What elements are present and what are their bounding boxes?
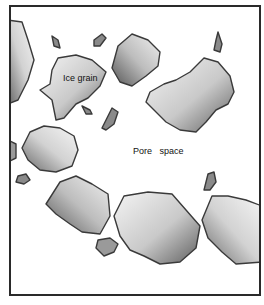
ice-particle [102, 108, 118, 130]
ice-grain-left-top [8, 20, 34, 104]
ice-grain-labeled [40, 55, 106, 120]
ice-grain-upper-mid [112, 34, 160, 86]
ice-particle [96, 238, 118, 256]
pore-space-label: Pore space [133, 147, 184, 156]
ice-grain-lower-right [202, 196, 262, 264]
ice-grain-left-mid [22, 126, 78, 172]
ice-grain-right-star [146, 58, 234, 132]
ice-grain-label: Ice grain [63, 74, 98, 83]
ice-particle [94, 34, 106, 46]
ice-grain-left-edge [8, 140, 16, 162]
ice-particle [214, 32, 222, 52]
ice-grain-lower-left [46, 176, 110, 234]
ice-grain-lower-center [114, 192, 200, 264]
ice-particle [204, 172, 216, 190]
ice-particle [82, 106, 92, 114]
ice-particle [16, 174, 30, 184]
ice-grains-illustration [0, 0, 264, 305]
ice-particle [52, 36, 60, 48]
